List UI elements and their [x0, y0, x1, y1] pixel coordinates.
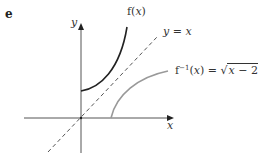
finv-label-exp: −1: [179, 64, 189, 72]
identity-line-label: y = x: [163, 25, 192, 38]
x-axis-label: x: [167, 119, 173, 132]
inverse-curve: [111, 71, 168, 118]
y-axis-label: y: [71, 16, 77, 29]
graph-canvas: [0, 0, 263, 160]
f-label-close: ): [142, 5, 146, 18]
yx-label-x: x: [185, 25, 191, 38]
finv-radicand-rest: − 2: [235, 64, 258, 77]
origin-point: [80, 117, 82, 119]
finv-label-close: ) =: [200, 64, 221, 77]
y-axis-arrow-icon: [78, 23, 84, 30]
f-curve: [81, 27, 127, 91]
identity-line: [48, 37, 157, 152]
part-label: e: [5, 7, 13, 21]
f-curve-label: f(x): [127, 5, 146, 18]
yx-label-eq: =: [169, 25, 185, 38]
inverse-curve-label: f−1(x) = √x − 2: [175, 64, 258, 77]
finv-radicand: x − 2: [227, 63, 257, 77]
